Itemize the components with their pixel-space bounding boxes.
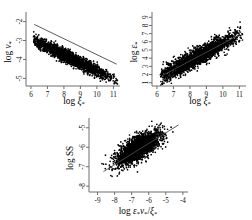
data-point — [216, 48, 218, 50]
data-point — [51, 44, 53, 46]
data-point — [65, 50, 67, 52]
data-point — [141, 135, 143, 137]
data-point — [178, 70, 180, 72]
data-point — [73, 60, 75, 62]
panel-a-ylabel-prefix: log — [3, 49, 13, 63]
data-point — [51, 48, 53, 50]
data-point — [82, 60, 84, 62]
data-point — [164, 77, 166, 79]
data-point — [97, 72, 99, 74]
panel-c-y-tick-label: -5 — [79, 124, 87, 130]
data-point — [188, 58, 190, 60]
data-point — [120, 166, 122, 168]
panel-a-y-tick-label: -2 — [16, 18, 24, 24]
data-point — [41, 43, 43, 45]
data-point — [126, 143, 128, 145]
data-point — [186, 69, 188, 71]
data-point — [203, 58, 205, 60]
data-point — [136, 132, 138, 134]
data-point — [35, 38, 37, 40]
panel-b-y-tick-label: 1 — [142, 81, 150, 85]
panel-c-xlabel-sub3: * — [154, 210, 157, 217]
panel-b-svg: 123456789 67891011 log ε* log ξ* — [126, 0, 252, 110]
panel-b-x-tick-label: 10 — [219, 91, 227, 99]
data-point — [226, 48, 228, 50]
data-point — [135, 144, 137, 146]
data-point — [197, 59, 199, 61]
data-point — [113, 163, 115, 165]
panel-b-x-tick-label: 6 — [155, 91, 159, 99]
data-point — [58, 47, 60, 49]
data-point — [195, 60, 197, 62]
data-point — [54, 57, 56, 59]
panel-c-x-tick-label: -8 — [112, 197, 118, 205]
data-point — [161, 68, 163, 70]
data-point — [174, 59, 176, 61]
data-point — [164, 141, 166, 143]
data-point — [113, 76, 115, 78]
data-point — [130, 148, 132, 150]
data-point — [67, 60, 69, 62]
data-point — [190, 65, 192, 67]
data-point — [148, 157, 150, 159]
data-point — [122, 170, 124, 172]
data-point — [178, 57, 180, 59]
data-point — [104, 79, 106, 81]
data-point — [200, 58, 202, 60]
data-point — [165, 68, 167, 70]
data-point — [211, 39, 213, 41]
data-point — [109, 76, 111, 78]
data-point — [188, 70, 190, 72]
data-point — [56, 60, 58, 62]
data-point — [49, 48, 51, 50]
data-point — [99, 67, 101, 69]
panel-a-xlabel-sub: * — [81, 100, 84, 107]
data-point — [170, 126, 172, 128]
data-point — [51, 41, 53, 43]
data-point — [84, 61, 86, 63]
data-point — [184, 58, 186, 60]
data-point — [168, 74, 170, 76]
data-point — [151, 120, 153, 122]
data-point — [102, 73, 104, 75]
data-point — [198, 48, 200, 50]
data-point — [151, 149, 153, 151]
panel-c-fit-line — [104, 125, 179, 172]
data-point — [35, 43, 37, 45]
data-point — [135, 156, 137, 158]
data-point — [203, 51, 205, 53]
data-point — [197, 67, 199, 69]
data-point — [187, 71, 189, 73]
data-point — [33, 31, 35, 33]
data-point — [137, 143, 139, 145]
data-point — [162, 77, 164, 79]
data-point — [117, 156, 119, 158]
data-point — [116, 160, 118, 162]
data-point — [70, 51, 72, 53]
panel-b-ylabel-prefix: log — [129, 48, 139, 62]
panel-a-x-tick-label: 10 — [93, 91, 101, 99]
data-point — [141, 151, 143, 153]
data-point — [38, 46, 40, 48]
data-point — [173, 55, 175, 57]
data-point — [40, 49, 42, 51]
data-point — [132, 136, 134, 138]
data-point — [105, 154, 107, 156]
data-point — [69, 60, 71, 62]
data-point — [94, 67, 96, 69]
data-point — [162, 127, 164, 129]
panel-c-y-tick-label: -6 — [79, 144, 87, 150]
data-point — [60, 48, 62, 50]
data-point — [216, 36, 218, 38]
data-point — [152, 145, 154, 147]
data-point — [151, 150, 153, 152]
data-point — [46, 50, 48, 52]
data-point — [226, 45, 228, 47]
data-point — [115, 156, 117, 158]
data-point — [130, 157, 132, 159]
data-point — [83, 66, 85, 68]
data-point — [90, 69, 92, 71]
data-point — [77, 60, 79, 62]
data-point — [74, 62, 76, 64]
data-point — [157, 132, 159, 134]
